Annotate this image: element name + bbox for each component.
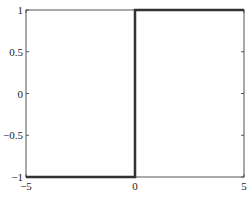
x-tick-labels: −505	[20, 180, 247, 192]
x-tick-label: −5	[20, 180, 32, 192]
y-tick-label: 0.5	[9, 46, 23, 58]
step-function-chart: 10.50−0.5−1 −505	[0, 0, 249, 200]
y-tick-labels: 10.50−0.5−1	[3, 4, 23, 183]
y-tick-label: −0.5	[3, 129, 23, 141]
y-tick-label: 1	[18, 4, 24, 16]
x-tick-label: 5	[241, 180, 247, 192]
x-tick-label: 0	[132, 180, 138, 192]
y-tick-label: 0	[18, 88, 24, 100]
